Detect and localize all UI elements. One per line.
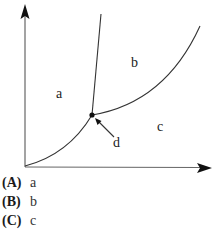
option-letter: (C) [2,211,30,230]
x-axis [25,163,212,173]
option-text: c [30,211,36,230]
pointer-label-d: d [113,135,120,150]
option-text: b [30,192,37,211]
option-text: a [30,173,36,192]
region-label-b: b [131,55,138,70]
option-a[interactable]: (A) a [2,173,37,192]
region-label-c: c [157,119,163,134]
region-label-a: a [56,86,63,101]
phase-diagram: a b c d [0,0,214,175]
option-b[interactable]: (B) b [2,192,37,211]
sublimation-curve [25,115,92,166]
pointer-arrow [95,118,114,137]
melting-curve [92,14,101,115]
answer-options: (A) a (B) b (C) c [2,173,37,230]
triple-point [89,112,94,117]
y-axis [21,4,30,167]
option-c[interactable]: (C) c [2,211,37,230]
vaporization-curve [92,26,200,115]
option-letter: (B) [2,192,30,211]
option-letter: (A) [2,173,30,192]
